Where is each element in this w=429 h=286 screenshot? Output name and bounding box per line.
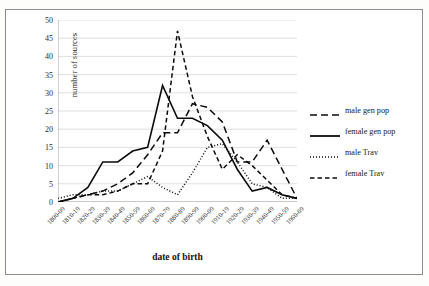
- legend-item[interactable]: female Trav: [310, 163, 422, 184]
- series-line: [58, 144, 297, 199]
- y-tick-label: 5: [49, 179, 53, 188]
- legend-item[interactable]: female gen pop: [310, 121, 422, 142]
- y-tick-label: 40: [45, 52, 53, 61]
- x-axis-title: date of birth: [58, 252, 297, 262]
- y-tick-label: 45: [45, 34, 53, 43]
- plot-area: number of sources 05101520253035404550 1…: [58, 20, 297, 202]
- legend-label: male Trav: [345, 148, 378, 157]
- legend-label: female Trav: [345, 169, 384, 178]
- y-tick-label: 50: [45, 16, 53, 25]
- legend-line-swatch: [310, 169, 340, 179]
- y-tick-label: 20: [45, 125, 53, 134]
- legend-label: female gen pop: [345, 127, 395, 136]
- legend-line-swatch: [310, 127, 340, 137]
- legend-line-swatch: [310, 148, 340, 158]
- chart-legend: male gen popfemale gen popmale Travfemal…: [310, 100, 422, 184]
- y-tick-label: 35: [45, 70, 53, 79]
- gridlines: [58, 20, 297, 202]
- y-tick-label: 15: [45, 143, 53, 152]
- legend-item[interactable]: male gen pop: [310, 100, 422, 121]
- legend-line-swatch: [310, 106, 340, 116]
- y-tick-label: 10: [45, 161, 53, 170]
- legend-item[interactable]: male Trav: [310, 142, 422, 163]
- chart-figure: number of sources 05101520253035404550 1…: [0, 0, 429, 286]
- series-line: [58, 86, 297, 202]
- y-tick-label: 30: [45, 88, 53, 97]
- chart-plot-svg: [58, 20, 297, 202]
- y-tick-label: 0: [49, 198, 53, 207]
- y-tick-label: 25: [45, 107, 53, 116]
- legend-label: male gen pop: [345, 106, 389, 115]
